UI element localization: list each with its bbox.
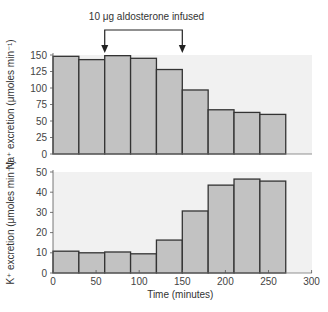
bar (53, 251, 79, 273)
x-tick-label: 100 (131, 276, 148, 287)
bar (260, 181, 286, 273)
y-tick-label: 0 (41, 268, 47, 279)
y-tick-label: 0 (41, 149, 47, 160)
bar (105, 56, 131, 154)
y-tick-label: 30 (36, 207, 48, 218)
bar (79, 60, 105, 154)
bar (260, 114, 286, 154)
y-tick-label: 50 (36, 116, 48, 127)
arrow-down-icon (179, 45, 186, 53)
bracket-line (105, 30, 183, 48)
bar (182, 211, 208, 273)
x-tick-label: 50 (91, 276, 103, 287)
x-tick-label: 0 (50, 276, 56, 287)
y-axis-label: K⁺ excretion (μmoles min⁻¹) (5, 160, 16, 284)
bar (131, 254, 157, 273)
x-tick-label: 300 (303, 276, 320, 287)
y-tick-label: 25 (36, 132, 48, 143)
bar (105, 252, 131, 273)
y-tick-label: 50 (36, 167, 48, 178)
bar (131, 58, 157, 154)
y-tick-label: 20 (36, 227, 48, 238)
y-axis-label: Na⁺ excretion (μmoles min⁻¹) (5, 39, 16, 169)
bar (208, 110, 234, 154)
y-tick-label: 150 (30, 50, 47, 61)
k-excretion-panel: 01020304050K⁺ excretion (μmoles min⁻¹) (5, 160, 312, 284)
x-axis-label: Time (minutes) (147, 289, 213, 300)
y-tick-label: 10 (36, 247, 48, 258)
arrow-down-icon (101, 45, 108, 53)
y-tick-label: 40 (36, 187, 48, 198)
bar (182, 90, 208, 154)
y-tick-label: 100 (30, 83, 47, 94)
na-excretion-panel: 0255075100125150Na⁺ excretion (μmoles mi… (5, 39, 312, 169)
annotation-label: 10 μg aldosterone infused (89, 11, 204, 22)
aldosterone-annotation: 10 μg aldosterone infused (89, 11, 204, 53)
bar (234, 112, 260, 154)
bar (208, 185, 234, 273)
bar (53, 56, 79, 154)
x-tick-label: 150 (174, 276, 191, 287)
x-tick-label: 200 (217, 276, 234, 287)
bar (156, 240, 182, 273)
bar (79, 253, 105, 273)
aldosterone-chart: 0255075100125150Na⁺ excretion (μmoles mi… (0, 0, 328, 312)
bar (156, 70, 182, 154)
x-tick-label: 250 (260, 276, 277, 287)
y-tick-label: 125 (30, 66, 47, 77)
y-tick-label: 75 (36, 99, 48, 110)
bar (234, 179, 260, 273)
